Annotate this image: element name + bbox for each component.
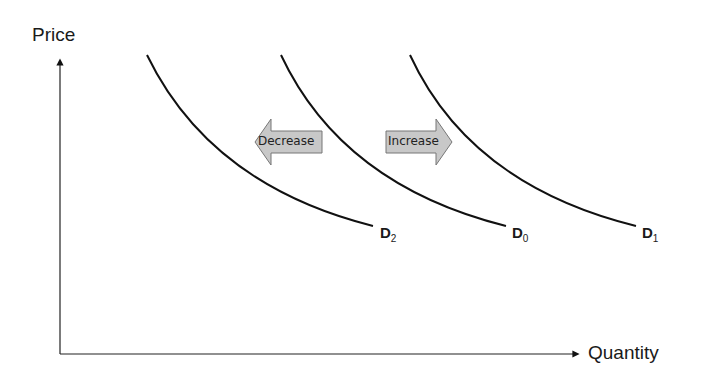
curve-label-d1: D1 <box>642 224 658 244</box>
y-axis-label: Price <box>32 24 75 46</box>
curve-label-d1-main: D <box>642 224 653 241</box>
curve-label-d2-main: D <box>380 224 391 241</box>
curve-label-d1-sub: 1 <box>653 233 659 244</box>
curve-label-d0: D0 <box>512 224 528 244</box>
curve-label-d0-main: D <box>512 224 523 241</box>
curve-label-d2-sub: 2 <box>391 233 397 244</box>
curve-label-d0-sub: 0 <box>523 233 529 244</box>
curve-label-d2: D2 <box>380 224 396 244</box>
demand-shift-diagram <box>0 0 715 388</box>
x-axis-label: Quantity <box>588 342 659 364</box>
decrease-label: Decrease <box>258 134 314 148</box>
increase-label: Increase <box>388 134 439 148</box>
